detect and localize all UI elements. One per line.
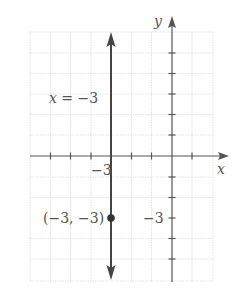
x-axis-label: x: [217, 161, 225, 177]
point-label: (−3, −3): [43, 210, 104, 226]
y-axis-label: y: [153, 13, 163, 29]
x-axis: [30, 153, 222, 160]
line-equation-label: x = −3: [49, 90, 98, 106]
y-axis: [169, 24, 176, 282]
y-tick-label: −3: [143, 210, 164, 226]
point-neg3-neg3: [107, 214, 115, 222]
coordinate-plane: y x −3 −3 x = −3 (−3, −3): [0, 0, 234, 294]
x-tick-label: −3: [91, 162, 112, 178]
